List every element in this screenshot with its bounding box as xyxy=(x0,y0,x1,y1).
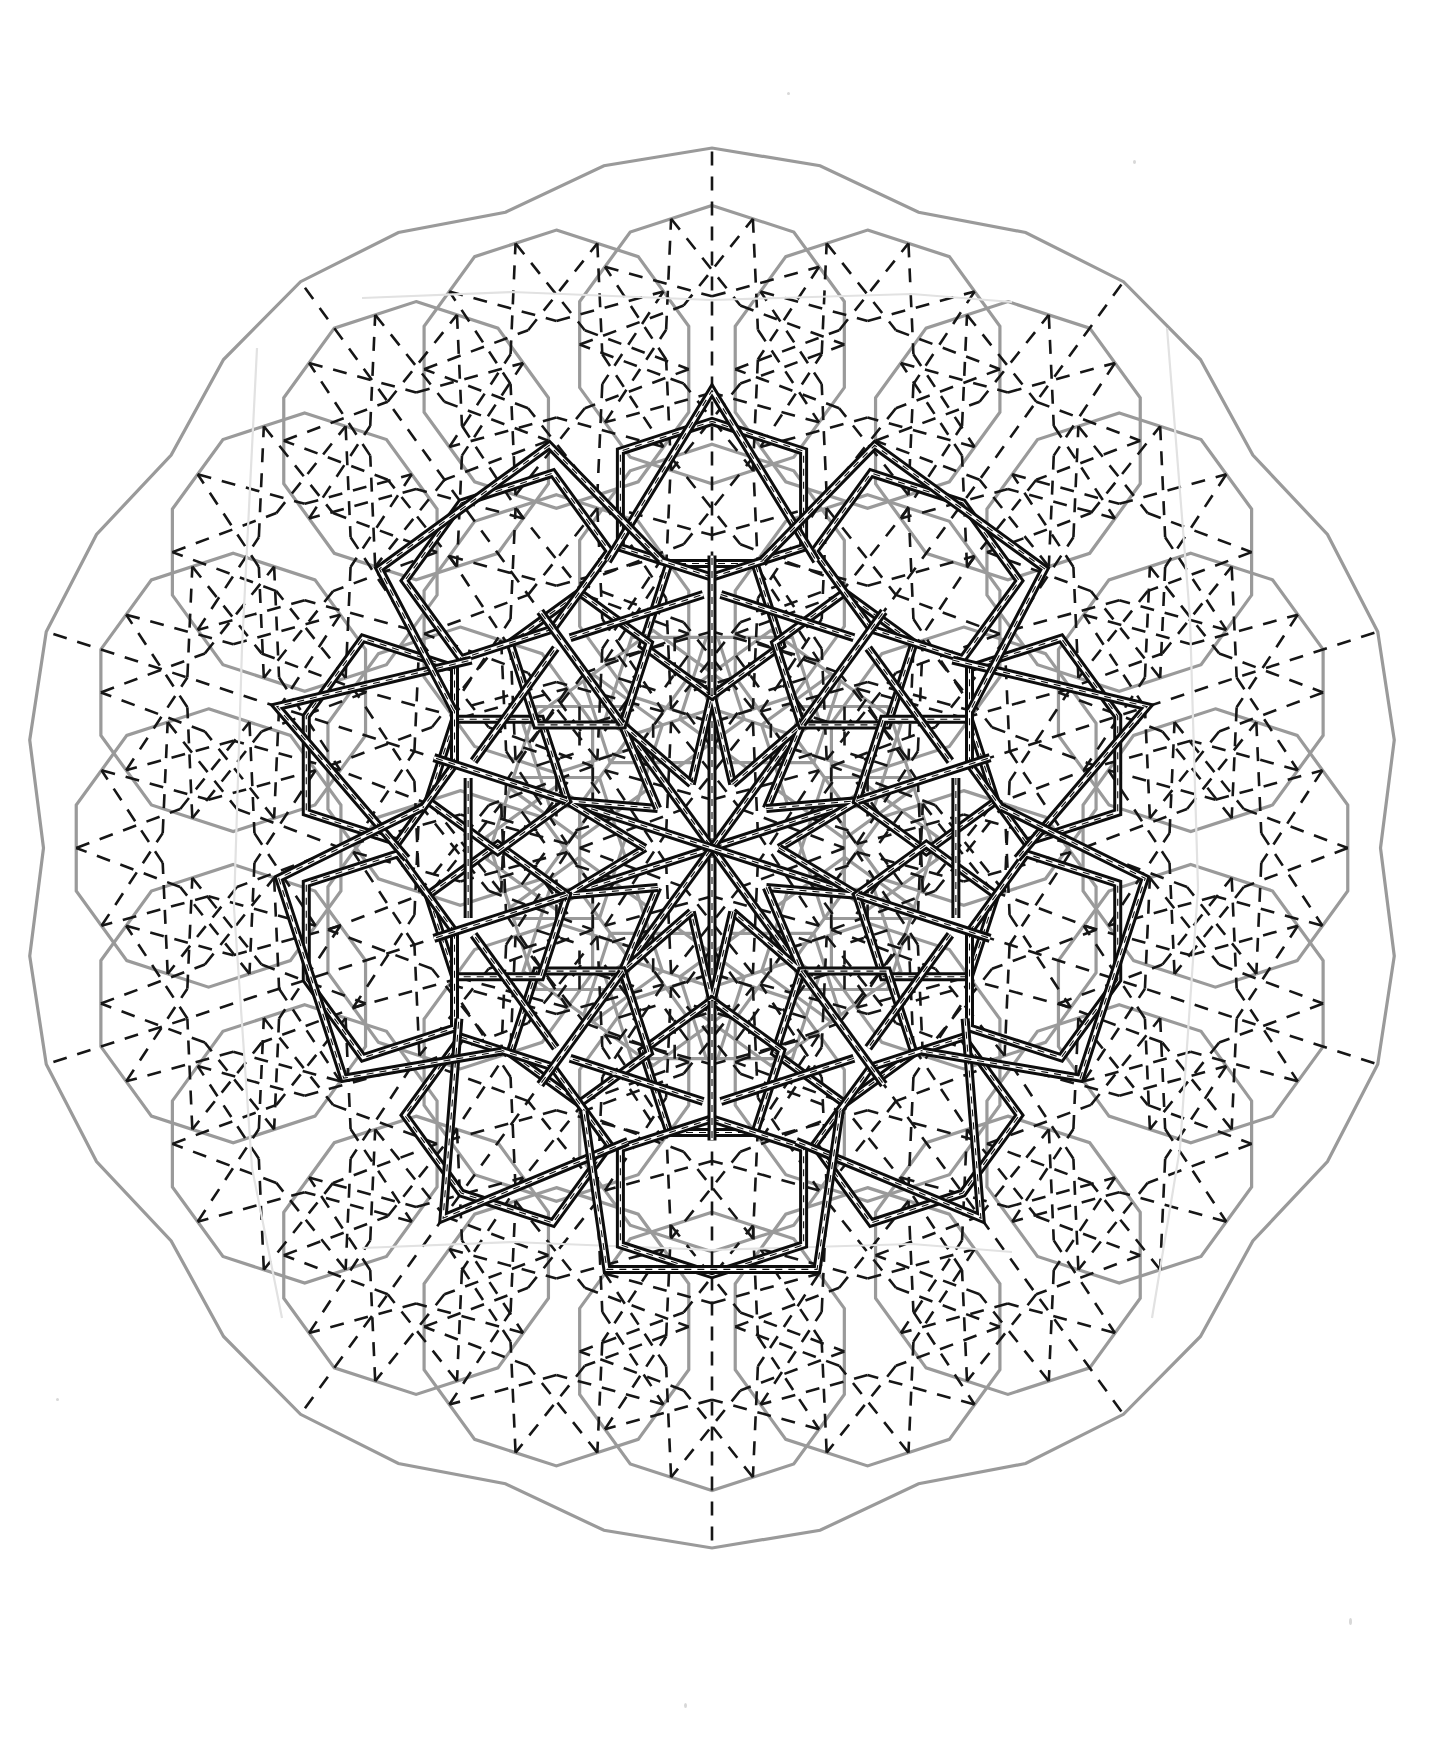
figure-caption-strip xyxy=(0,1730,1447,1748)
girih-construction-figure xyxy=(0,0,1447,1748)
paper-speck xyxy=(787,92,790,95)
paper-speck xyxy=(1349,1618,1352,1625)
paper-speck xyxy=(56,1398,59,1401)
paper-speck xyxy=(1133,160,1136,164)
drawing-sheet xyxy=(0,0,1447,1748)
paper-speck xyxy=(612,1072,616,1075)
paper-speck xyxy=(684,1703,687,1708)
